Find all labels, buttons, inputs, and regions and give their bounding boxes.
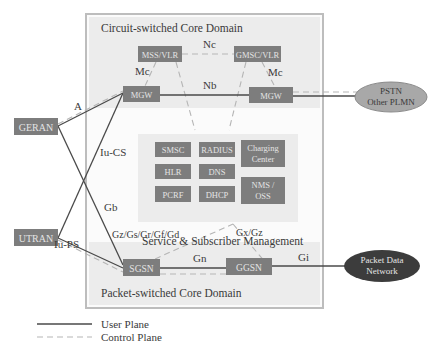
node-mss-vlr: MSS/VLR xyxy=(138,46,182,62)
node-mgw-left: MGW xyxy=(123,86,160,102)
node-hlr: HLR xyxy=(155,164,191,179)
interface-gx-gz-label: Gx/Gz xyxy=(236,227,263,238)
svg-text:RADIUS: RADIUS xyxy=(201,145,233,155)
svg-text:Network: Network xyxy=(366,266,398,276)
interface-nc-label: Nc xyxy=(203,38,216,50)
svg-text:SMSC: SMSC xyxy=(162,145,185,155)
node-ggsn: GGSN xyxy=(226,258,272,275)
svg-text:PCRF: PCRF xyxy=(163,190,184,200)
node-dns: DNS xyxy=(199,164,235,179)
node-dhcp: DHCP xyxy=(199,186,235,202)
svg-text:OSS: OSS xyxy=(255,191,271,201)
svg-text:SGSN: SGSN xyxy=(129,264,153,274)
svg-text:PSTN: PSTN xyxy=(380,86,403,96)
interface-iu-ps-label: Iu-PS xyxy=(54,238,79,250)
svg-text:DHCP: DHCP xyxy=(206,190,229,200)
svg-text:GMSC/VLR: GMSC/VLR xyxy=(236,50,280,60)
external-pstn-plmn: PSTN Other PLMN xyxy=(355,82,427,112)
interface-gz-gs-gr-gf-gd-label: Gz/Gs/Gr/Gf/Gd xyxy=(112,229,179,240)
legend: User Plane Control Plane xyxy=(37,318,162,343)
svg-text:UTRAN: UTRAN xyxy=(19,233,53,244)
interface-a-label: A xyxy=(74,100,82,112)
svg-text:Other PLMN: Other PLMN xyxy=(367,97,415,107)
node-smsc: SMSC xyxy=(155,142,191,157)
interface-gi-label: Gi xyxy=(298,251,309,263)
legend-user-plane-label: User Plane xyxy=(101,318,149,330)
circuit-switched-domain-title: Circuit-switched Core Domain xyxy=(101,22,243,34)
external-packet-data-network: Packet Data Network xyxy=(344,250,420,282)
node-charging-center: Charging Center xyxy=(241,140,285,167)
node-nms-oss: NMS / OSS xyxy=(241,177,285,204)
node-geran: GERAN xyxy=(14,118,58,135)
interface-iu-cs-label: Iu-CS xyxy=(100,146,126,158)
svg-text:MGW: MGW xyxy=(131,90,153,100)
node-gmsc-vlr: GMSC/VLR xyxy=(234,46,281,62)
svg-text:NMS /: NMS / xyxy=(252,180,276,190)
interface-gn-label: Gn xyxy=(193,252,207,264)
svg-text:HLR: HLR xyxy=(165,167,182,177)
interface-mc-right-label: Mc xyxy=(268,66,283,78)
node-sgsn: SGSN xyxy=(123,259,160,276)
svg-text:Charging: Charging xyxy=(247,143,279,153)
svg-text:GGSN: GGSN xyxy=(236,263,262,273)
network-architecture-diagram: Circuit-switched Core Domain Service & S… xyxy=(0,0,440,355)
svg-text:DNS: DNS xyxy=(208,167,225,177)
node-pcrf: PCRF xyxy=(155,186,191,202)
packet-switched-domain-title: Packet-switched Core Domain xyxy=(101,287,242,299)
interface-nb-label: Nb xyxy=(203,79,217,91)
node-utran: UTRAN xyxy=(14,229,58,246)
svg-text:MGW: MGW xyxy=(260,91,282,101)
interface-mc-left-label: Mc xyxy=(135,65,150,77)
node-mgw-right: MGW xyxy=(249,87,293,103)
svg-text:GERAN: GERAN xyxy=(19,122,53,133)
svg-text:MSS/VLR: MSS/VLR xyxy=(142,50,179,60)
node-radius: RADIUS xyxy=(199,142,235,157)
legend-control-plane-label: Control Plane xyxy=(101,331,162,343)
svg-text:Center: Center xyxy=(252,154,275,164)
interface-gb-label: Gb xyxy=(104,201,118,213)
svg-text:Packet Data: Packet Data xyxy=(360,255,403,265)
